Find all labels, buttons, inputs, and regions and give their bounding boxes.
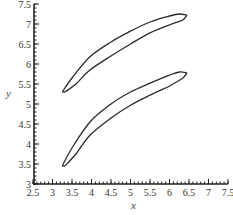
x-tick-label: 7.5: [222, 187, 233, 198]
x-tick-label: 4: [89, 187, 94, 198]
x-tick-label: 6: [167, 187, 172, 198]
y-tick-label: 6: [26, 59, 31, 70]
x-axis-ticks: 2.533.544.555.566.577.5: [27, 179, 233, 198]
x-tick-label: 3: [50, 187, 55, 198]
loop-0-right-cap: [183, 15, 187, 20]
x-tick-label: 3.5: [66, 187, 79, 198]
y-axis-ticks: 33.544.555.566.577.5: [19, 0, 40, 190]
y-tick-label: 7: [26, 19, 31, 30]
x-tick-label: 7: [206, 187, 211, 198]
y-tick-label: 5: [26, 99, 31, 110]
x-tick-label: 4.5: [105, 187, 118, 198]
x-tick-label: 5: [128, 187, 133, 198]
loop-1-right-cap: [183, 73, 187, 78]
y-tick-label: 6.5: [19, 39, 32, 50]
y-tick-label: 4.5: [19, 119, 32, 130]
y-axis-label: y: [5, 87, 11, 99]
curve-series-3: [65, 78, 183, 166]
y-tick-label: 3.5: [19, 159, 32, 170]
x-axis-label: x: [130, 199, 136, 211]
x-tick-label: 2.5: [27, 187, 40, 198]
x-tick-label: 5.5: [144, 187, 157, 198]
y-tick-label: 4: [26, 139, 31, 150]
y-tick-label: 5.5: [19, 79, 32, 90]
x-tick-label: 6.5: [183, 187, 196, 198]
y-tick-label: 7.5: [19, 0, 32, 10]
chart: 33.544.555.566.577.5 2.533.544.555.566.5…: [0, 0, 233, 215]
plot-curves: [62, 14, 187, 166]
curve-series-1: [65, 20, 183, 92]
